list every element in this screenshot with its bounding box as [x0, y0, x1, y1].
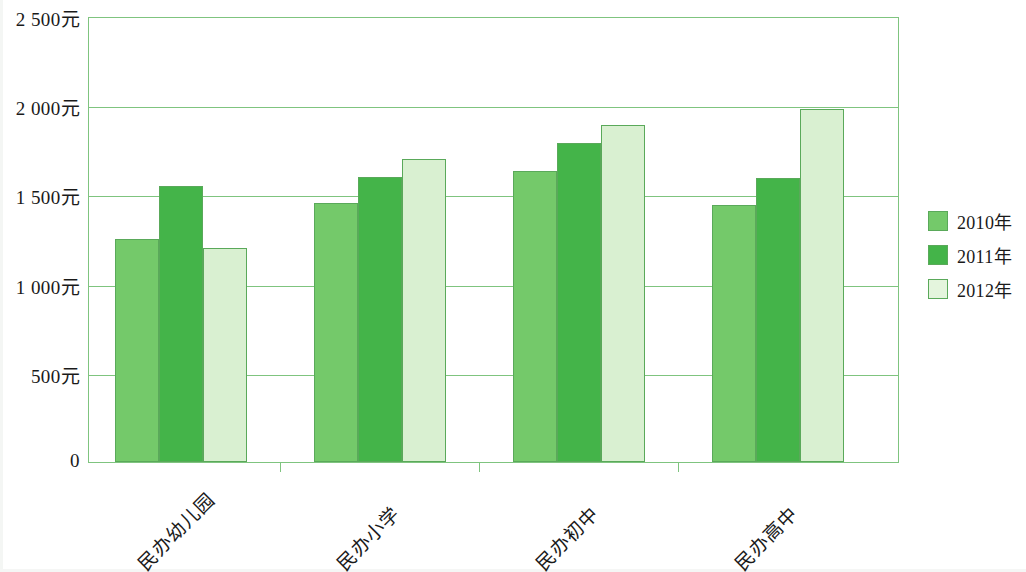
x-axis-tick — [280, 463, 281, 472]
y-axis-tick-label: 500元 — [31, 361, 80, 388]
bar — [557, 143, 601, 462]
legend-item: 2011年 — [928, 238, 1026, 272]
x-axis-category-label: 民办高中 — [727, 499, 803, 572]
series-1-swatch — [928, 211, 948, 231]
bar — [203, 248, 247, 462]
legend-item-label: 2012年 — [957, 276, 1013, 302]
series-3-swatch — [928, 279, 948, 299]
bars-layer — [89, 18, 898, 462]
legend-item: 2012年 — [928, 272, 1026, 306]
y-axis-tick-label: 1 500元 — [16, 182, 80, 209]
x-axis-category-label: 民办幼儿园 — [130, 485, 220, 572]
y-axis: 0500元1 000元1 500元2 000元2 500元 — [0, 0, 80, 572]
x-axis-category-label: 民办小学 — [329, 499, 405, 572]
bar — [314, 203, 358, 462]
legend-item: 2010年 — [928, 204, 1026, 238]
bar — [712, 205, 756, 462]
y-axis-tick-label: 2 500元 — [16, 4, 80, 31]
y-axis-tick-label: 1 000元 — [16, 272, 80, 299]
x-axis-tick — [678, 463, 679, 472]
plot-area — [88, 17, 899, 463]
legend-item-label: 2010年 — [957, 208, 1013, 234]
bar-chart: 0500元1 000元1 500元2 000元2 500元 民办幼儿园民办小学民… — [0, 0, 1026, 572]
bar — [159, 186, 203, 462]
bar — [513, 171, 557, 462]
legend-item-label: 2011年 — [957, 242, 1012, 268]
bar — [115, 239, 159, 462]
bar — [358, 177, 402, 462]
bar — [601, 125, 645, 462]
y-axis-tick-label: 0 — [70, 450, 80, 472]
y-axis-tick-label: 2 000元 — [16, 93, 80, 120]
bar — [800, 109, 844, 462]
x-axis-category-label: 民办初中 — [528, 499, 604, 572]
x-axis-tick — [479, 463, 480, 472]
legend: 2010年2011年2012年 — [928, 204, 1026, 306]
series-2-swatch — [928, 245, 948, 265]
bar — [402, 159, 446, 462]
bar — [756, 178, 800, 462]
